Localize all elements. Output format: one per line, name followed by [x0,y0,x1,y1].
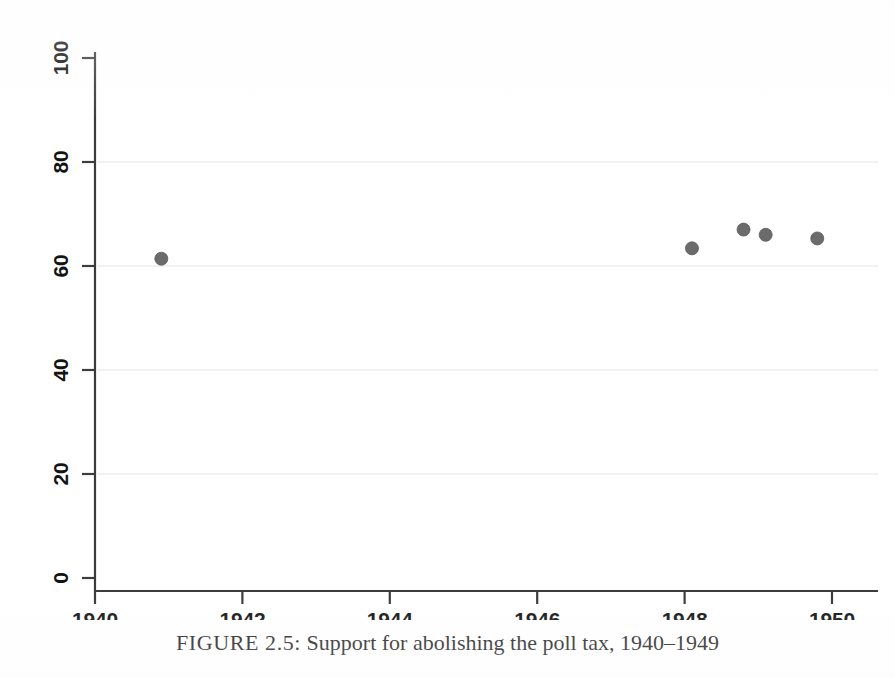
x-tick-label-1942: 1942 [219,608,265,620]
data-point [811,232,824,245]
x-tick-label-1950: 1950 [809,608,855,620]
y-tick-label-20: 20 [49,463,72,486]
figure-caption: FIGURE 2.5: Support for abolishing the p… [0,630,895,656]
data-point [685,242,698,255]
data-point [737,223,750,236]
y-tick-label-0: 0 [49,572,72,583]
x-tick-label-1940: 1940 [72,608,118,620]
figure-caption-text: Support for abolishing the poll tax, 194… [307,630,719,655]
x-tick-label-1944: 1944 [367,608,413,620]
x-tick-label-1946: 1946 [514,608,560,620]
y-tick-label-100: 100 [49,41,72,75]
figure-number: FIGURE 2.5: [176,630,301,655]
data-point [759,228,772,241]
figure-container: 020406080100 194019421944194619481950 FI… [0,0,895,678]
scatter-plot: 020406080100 194019421944194619481950 [0,0,895,620]
x-tick-label-1948: 1948 [662,608,708,620]
y-tick-label-40: 40 [49,359,72,382]
y-tick-label-80: 80 [49,151,72,174]
data-point [155,252,168,265]
plot-background [0,0,895,620]
y-tick-label-60: 60 [49,255,72,278]
